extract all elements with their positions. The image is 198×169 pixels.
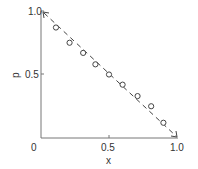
data-point xyxy=(120,82,125,87)
y-axis-label: p xyxy=(10,72,21,78)
x-tick-label-1.0: 1.0 xyxy=(170,142,184,153)
data-point xyxy=(67,40,72,45)
data-point xyxy=(93,62,98,67)
x-tick-label-0: 0 xyxy=(31,142,37,153)
data-point xyxy=(53,25,58,30)
data-point xyxy=(149,104,154,109)
data-point xyxy=(161,120,166,125)
data-points xyxy=(53,25,166,125)
scatter-chart: 1.0 0.5 0 0.5 1.0 x p xyxy=(0,0,198,169)
data-point xyxy=(135,93,140,98)
data-point xyxy=(106,72,111,77)
x-tick-label-0.5: 0.5 xyxy=(101,142,115,153)
y-tick-label-1.0: 1.0 xyxy=(28,6,42,17)
y-tick-label-0.5: 0.5 xyxy=(25,69,39,80)
data-point xyxy=(81,50,86,55)
x-axis-label: x xyxy=(106,155,111,166)
